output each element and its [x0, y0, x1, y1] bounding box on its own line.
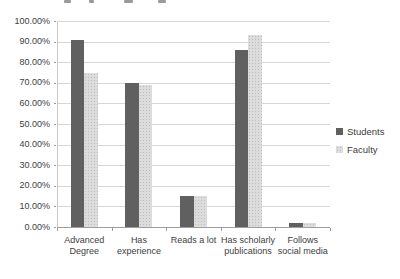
- y-axis-tick: [54, 83, 56, 84]
- gridline-20: [57, 186, 330, 187]
- y-axis-tick: [54, 227, 56, 228]
- y-axis-label: 100.00%: [6, 17, 50, 26]
- y-axis-label: 20.00%: [6, 181, 50, 190]
- y-axis-label: 60.00%: [6, 99, 50, 108]
- bar-faculty-reads-a-lot: [194, 196, 208, 227]
- x-axis-category-label: Has experience: [112, 235, 167, 257]
- y-axis-label: 0.00%: [6, 223, 50, 232]
- x-axis-tick: [166, 228, 167, 231]
- y-axis-tick: [54, 186, 56, 187]
- x-axis-tick: [330, 228, 331, 231]
- bar-students-follows-social-media: [289, 223, 303, 227]
- y-axis-label: 30.00%: [6, 161, 50, 170]
- legend-marker-students: [336, 128, 343, 135]
- bar-students-has-experience: [125, 83, 139, 227]
- bar-faculty-advanced-degree: [84, 73, 98, 228]
- y-axis-tick: [54, 124, 56, 125]
- bar-students-advanced-degree: [71, 40, 85, 227]
- bar-chart-figure: 0.00%10.00%20.00%30.00%40.00%50.00%60.00…: [0, 0, 400, 279]
- bar-faculty-follows-social-media: [303, 223, 317, 227]
- y-axis-label: 10.00%: [6, 202, 50, 211]
- x-axis-category-label: Advanced Degree: [57, 235, 112, 257]
- gridline-60: [57, 103, 330, 104]
- y-axis-tick: [54, 165, 56, 166]
- y-axis-tick: [54, 145, 56, 146]
- y-axis-tick: [54, 206, 56, 207]
- bar-faculty-has-scholarly-publications: [248, 35, 262, 227]
- x-axis-category-label: Has scholarly publications: [221, 235, 276, 257]
- gridline-70: [57, 83, 330, 84]
- y-axis-tick: [54, 103, 56, 104]
- x-axis-line: [57, 227, 330, 228]
- legend-label: Faculty: [347, 144, 378, 155]
- x-axis-category-label: Reads a lot: [166, 235, 221, 246]
- gridline-80: [57, 62, 330, 63]
- x-axis-category-label: Follows social media: [275, 235, 330, 257]
- x-axis-tick: [112, 228, 113, 231]
- y-axis-label: 50.00%: [6, 120, 50, 129]
- legend-item-faculty: Faculty: [336, 144, 385, 155]
- legend: StudentsFaculty: [336, 126, 385, 162]
- legend-label: Students: [347, 126, 385, 137]
- y-axis-tick: [54, 21, 56, 22]
- x-axis-tick: [57, 228, 58, 231]
- y-axis-label: 80.00%: [6, 58, 50, 67]
- y-axis-line: [57, 21, 58, 227]
- gridline-50: [57, 124, 330, 125]
- y-axis-label: 40.00%: [6, 140, 50, 149]
- bar-faculty-has-experience: [139, 85, 153, 227]
- x-axis-tick: [221, 228, 222, 231]
- y-axis-label: 70.00%: [6, 78, 50, 87]
- gridline-40: [57, 145, 330, 146]
- bar-students-reads-a-lot: [180, 196, 194, 227]
- y-axis-label: 90.00%: [6, 37, 50, 46]
- legend-marker-faculty: [336, 146, 343, 153]
- bar-students-has-scholarly-publications: [235, 50, 249, 227]
- y-axis-tick: [54, 62, 56, 63]
- gridline-100: [57, 21, 330, 22]
- legend-item-students: Students: [336, 126, 385, 137]
- gridline-90: [57, 42, 330, 43]
- y-axis-tick: [54, 42, 56, 43]
- gridline-30: [57, 165, 330, 166]
- x-axis-tick: [275, 228, 276, 231]
